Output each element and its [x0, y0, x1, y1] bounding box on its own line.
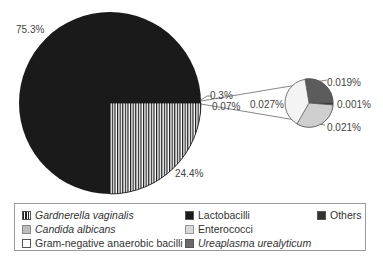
lightgray-swatch-icon	[185, 225, 194, 234]
charcoal-swatch-icon	[317, 211, 326, 220]
stripes-swatch-icon	[22, 211, 31, 220]
label-lactobacilli: 75.3%	[16, 24, 44, 35]
legend-item-gram-negative: Gram-negative anaerobic bacilli	[22, 237, 183, 249]
gray-swatch-icon	[22, 225, 31, 234]
label-gram-negative: 0.027%	[250, 99, 284, 110]
legend: Gardnerella vaginalis Candida albicans G…	[14, 203, 366, 251]
label-candida: 0.3%	[210, 90, 233, 101]
white-swatch-icon	[22, 239, 31, 248]
slice-gardnerella	[110, 103, 201, 194]
legend-item-enterococci: Enterococci	[185, 223, 253, 235]
legend-item-others: Others	[317, 209, 362, 221]
legend-item-candida: Candida albicans	[22, 223, 116, 235]
legend-item-ureaplasma: Ureaplasma urealyticum	[185, 237, 311, 249]
label-ureaplasma: 0.019%	[327, 77, 361, 88]
darkgray-swatch-icon	[185, 239, 194, 248]
legend-item-lactobacilli: Lactobacilli	[185, 209, 250, 221]
label-group: 0.07%	[212, 101, 240, 112]
label-others: 0.001%	[337, 99, 371, 110]
black-swatch-icon	[185, 211, 194, 220]
sub-pie	[285, 79, 333, 128]
label-gardnerella: 24.4%	[175, 168, 203, 179]
legend-item-gardnerella: Gardnerella vaginalis	[22, 209, 134, 221]
label-enterococci: 0.021%	[327, 122, 361, 133]
